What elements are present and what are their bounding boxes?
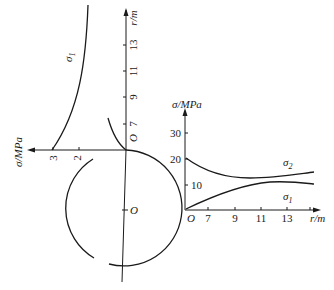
left-sigma-axis-arrow-icon: [27, 148, 35, 153]
svg-text:11: 11: [256, 212, 267, 224]
circle-arc-left: [66, 159, 94, 258]
sigma1-top-curve: [52, 5, 88, 150]
svg-text:9: 9: [232, 212, 238, 224]
sigma1-label: σ1: [283, 190, 292, 205]
stress-diagram: 7 9 11 13 O r/m 3 2 σ/MPa σ1 O 30: [0, 0, 334, 290]
svg-text:30: 30: [170, 127, 182, 139]
sigma2-label: σ2: [283, 156, 292, 171]
top-r-tick-labels: 7 9 11 13 O r/m: [127, 10, 139, 142]
svg-text:7: 7: [205, 212, 211, 224]
svg-text:13: 13: [282, 212, 294, 224]
svg-text:σ/MPa: σ/MPa: [12, 137, 24, 167]
svg-text:13: 13: [127, 39, 139, 51]
sigma1-curve: [186, 182, 314, 209]
sigma1-top-label: σ1: [62, 53, 77, 62]
small-curve: [108, 118, 126, 150]
svg-text:7: 7: [127, 121, 139, 127]
sigma2-curve: [186, 158, 314, 178]
svg-text:r/m: r/m: [310, 212, 325, 224]
svg-text:r/m: r/m: [127, 10, 139, 25]
center-label: O: [130, 204, 138, 216]
svg-text:11: 11: [127, 66, 139, 77]
svg-text:9: 9: [127, 94, 139, 100]
svg-text:2: 2: [71, 155, 83, 161]
circle-arc-right: [109, 150, 182, 266]
svg-text:σ/MPa: σ/MPa: [172, 98, 202, 110]
svg-text:20: 20: [170, 153, 182, 165]
svg-text:O: O: [187, 212, 195, 224]
svg-text:10: 10: [191, 179, 203, 191]
svg-text:O: O: [127, 134, 139, 142]
diameter-line: [122, 150, 126, 282]
left-sigma-tick-labels: 3 2 σ/MPa: [12, 137, 83, 167]
svg-text:3: 3: [47, 155, 59, 161]
